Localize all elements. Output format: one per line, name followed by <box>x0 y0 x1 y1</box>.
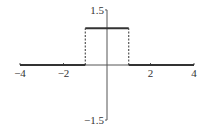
y-tick-label: 1.5 <box>90 4 104 16</box>
rectangular-pulse-chart: −4−2241.5−1.5 <box>0 0 205 140</box>
chart-svg: −4−2241.5−1.5 <box>0 0 205 140</box>
x-tick-label: −4 <box>14 67 26 79</box>
x-tick-label: 4 <box>191 67 197 79</box>
x-tick-label: −2 <box>58 67 70 79</box>
y-tick-label: −1.5 <box>84 114 104 126</box>
x-tick-label: 2 <box>148 67 154 79</box>
